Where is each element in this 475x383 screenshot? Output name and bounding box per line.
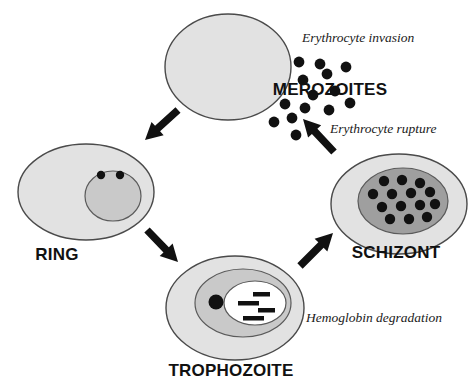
hemozoin-bar: [238, 301, 259, 306]
dot: [322, 69, 333, 80]
trophozoite-stage-cell: [166, 256, 304, 360]
dot: [324, 105, 335, 116]
trophozoite-chromatin-dot: [209, 295, 224, 310]
dot: [404, 214, 414, 224]
dot: [97, 171, 105, 179]
ring-stage-cell: [18, 144, 154, 240]
label-ring: RING: [35, 245, 78, 264]
label-erythrocyte-invasion: Erythrocyte invasion: [301, 30, 415, 45]
dot: [415, 200, 425, 210]
label-erythrocyte-rupture: Erythrocyte rupture: [329, 121, 437, 136]
dot: [430, 199, 440, 209]
label-trophozoite: TROPHOZOITE: [169, 361, 294, 380]
dot: [287, 113, 298, 124]
dot: [377, 202, 387, 212]
cycle-arrows: [139, 103, 341, 272]
hemozoin-bar: [258, 308, 275, 313]
dot: [291, 130, 302, 141]
dot: [387, 189, 397, 199]
dot: [385, 214, 395, 224]
dot: [368, 189, 378, 199]
erythrocyte-cell: [165, 14, 291, 120]
dot: [116, 171, 124, 179]
dot: [396, 201, 406, 211]
dot: [300, 103, 311, 114]
label-hemoglobin-degradation: Hemoglobin degradation: [305, 310, 442, 325]
arrow-ring-to-trophozoite: [141, 224, 185, 269]
dot: [269, 117, 280, 128]
erythrocyte-membrane: [165, 14, 291, 120]
dot: [415, 178, 425, 188]
ring-parasite-body: [85, 171, 141, 221]
dot: [280, 99, 291, 110]
dot: [406, 188, 416, 198]
dot: [397, 175, 407, 185]
label-merozoites: MEROZOITES: [273, 80, 387, 99]
arrow-erythrocyte-to-ring: [139, 103, 184, 146]
dot: [379, 176, 389, 186]
dot: [425, 187, 435, 197]
dot: [345, 98, 356, 109]
dot: [341, 62, 352, 73]
dot: [209, 295, 224, 310]
dot: [294, 57, 305, 68]
dot: [315, 59, 326, 70]
arrow-trophozoite-to-schizont: [294, 227, 340, 273]
label-schizont: SCHIZONT: [352, 243, 441, 262]
dot: [422, 212, 432, 222]
hemozoin-bar: [253, 292, 270, 297]
malaria-life-cycle-diagram: MEROZOITES RING TROPHOZOITE SCHIZONT Ery…: [0, 0, 475, 383]
schizont-stage-cell: [331, 154, 467, 254]
hemozoin-bar: [243, 316, 264, 321]
figure-canvas: MEROZOITES RING TROPHOZOITE SCHIZONT Ery…: [0, 0, 475, 383]
